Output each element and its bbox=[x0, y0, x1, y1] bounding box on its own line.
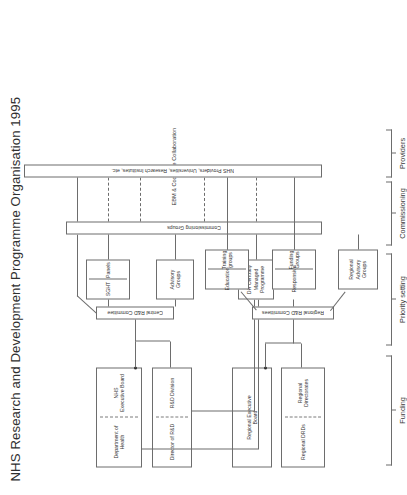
node-director-of-rd-label: Director of R&D bbox=[153, 417, 191, 466]
link-to-central-committee bbox=[135, 319, 136, 341]
band-label-providers: Providers bbox=[398, 125, 407, 181]
dashed-link-ebm-1 bbox=[108, 177, 109, 221]
node-regional-rd-committees: Regional R&D Committees bbox=[252, 306, 334, 319]
node-regional-directorates-label: Regional Directorates bbox=[282, 368, 324, 417]
bracket-tick-commissioning bbox=[392, 212, 396, 213]
band-label-commissioning: Commissioning bbox=[398, 175, 407, 251]
page-title: NHS Research and Development Programme O… bbox=[8, 96, 23, 481]
node-central-rd-committee: Central R&D Committee bbox=[96, 306, 174, 319]
link-regional-to-advisory bbox=[330, 291, 346, 311]
band-label-priority-setting: Priority setting bbox=[398, 253, 407, 345]
node-regional-executive-board-label: Regional Executive Board bbox=[233, 368, 271, 466]
node-advisory-groups-label: Advisory Groups bbox=[157, 260, 193, 298]
link-regional-to-responsive bbox=[293, 299, 294, 306]
dashed-link-ebm-3 bbox=[204, 177, 205, 221]
node-providers-bar: NHS Providers, Universities, Research In… bbox=[24, 164, 322, 177]
link-regexec-to-right bbox=[265, 343, 266, 367]
link-regionaladvisory-to-commissioning bbox=[358, 234, 359, 249]
node-responsive-label: Responsive bbox=[273, 269, 315, 288]
link-advisory-to-commissioning bbox=[175, 234, 176, 259]
link-nhsexec-to-right bbox=[135, 341, 136, 367]
node-regional-drds-label: Regional DRDs bbox=[282, 417, 324, 466]
link-nhsexec-down bbox=[135, 340, 170, 341]
node-education-label: Education bbox=[206, 269, 248, 288]
link-responsive-to-providers bbox=[294, 177, 295, 249]
link-central-rail-top bbox=[77, 234, 78, 296]
node-sght-panels: SGHT Panels bbox=[86, 259, 130, 299]
bracket-tick-priority-setting bbox=[392, 298, 396, 299]
node-regional-executive-board: Regional Executive Board bbox=[232, 367, 272, 467]
node-commissioning-groups: Commissioning Groups bbox=[66, 221, 322, 234]
node-regional-rd-committees-label: Regional R&D Committees bbox=[253, 307, 333, 318]
node-providers-bar-label: NHS Providers, Universities, Research In… bbox=[25, 165, 321, 176]
node-regional-advisory-groups: Regional Advisory Groups bbox=[338, 249, 378, 289]
link-regexec-down bbox=[265, 342, 301, 343]
node-department-of-health: Department of Health NHS Executive Board bbox=[96, 367, 142, 467]
node-director-of-rd: Director of R&D R&D Division bbox=[152, 367, 192, 467]
link-dhcmp-to-commissioning bbox=[256, 234, 257, 259]
dashed-link-ebm-4 bbox=[256, 177, 257, 221]
node-sght-label: SGHT bbox=[87, 279, 129, 298]
link-to-regional-committee bbox=[293, 319, 294, 343]
node-nhs-executive-board-label: NHS Executive Board bbox=[97, 368, 141, 417]
bracket-tick-funding bbox=[392, 409, 396, 410]
node-regional-drds: Regional DRDs Regional Directorates bbox=[281, 367, 325, 467]
node-department-of-health-label: Department of Health bbox=[97, 417, 141, 466]
node-regional-advisory-groups-label: Regional Advisory Groups bbox=[339, 250, 377, 288]
node-funding-groups-label: Funding Groups bbox=[273, 250, 315, 269]
link-dh-down bbox=[142, 448, 258, 449]
link-central-to-advisory bbox=[175, 299, 176, 306]
link-into-director bbox=[170, 341, 171, 367]
link-education-to-providers bbox=[227, 177, 228, 249]
node-education-training: Education Training groups bbox=[205, 249, 249, 289]
link-into-regional-drds bbox=[301, 343, 302, 367]
band-label-funding: Funding bbox=[398, 355, 407, 465]
node-training-groups-label: Training groups bbox=[206, 250, 248, 269]
node-panels-label: Panels bbox=[87, 260, 129, 279]
dashed-link-ebm-2 bbox=[140, 177, 141, 221]
node-central-rd-committee-label: Central R&D Committee bbox=[97, 307, 173, 318]
link-commissioning-top-to-providers bbox=[77, 177, 78, 221]
node-commissioning-groups-label: Commissioning Groups bbox=[67, 222, 321, 233]
link-director-down bbox=[192, 410, 254, 411]
node-responsive-funding: Responsive Funding Groups bbox=[272, 249, 316, 289]
link-dh-rail bbox=[258, 299, 259, 449]
link-central-to-sght bbox=[108, 299, 109, 306]
bracket-tick-providers bbox=[392, 152, 396, 153]
node-rd-division-label: R&D Division bbox=[153, 368, 191, 417]
node-advisory-groups: Advisory Groups bbox=[156, 259, 194, 299]
link-sght-to-commissioning bbox=[108, 234, 109, 259]
